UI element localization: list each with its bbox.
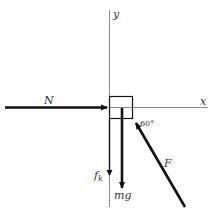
applied-force-label: F [163,157,172,170]
friction-force-label: fk [93,169,103,183]
axes [109,10,208,207]
normal-force-label: N [43,94,54,107]
y-axis-label: y [112,8,120,21]
angle-label: 60° [140,119,154,128]
x-axis-label: x [200,95,207,108]
weight-force-label: mg [114,189,131,202]
applied-force-arrow [136,123,185,207]
free-body-diagram: y x N fk mg F 60° [0,0,210,217]
